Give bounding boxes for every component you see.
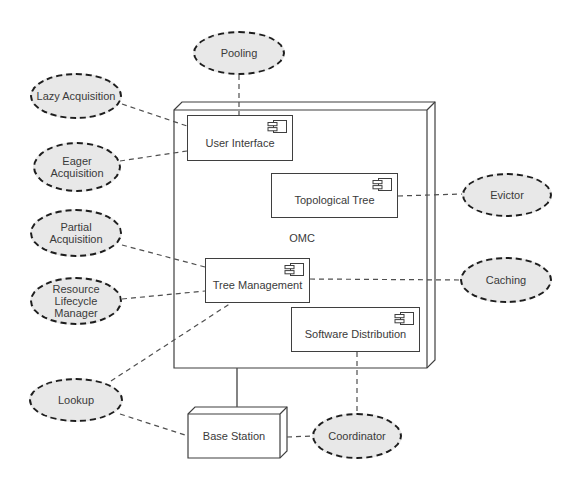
ellipse-label-line: Evictor <box>490 189 524 202</box>
ellipse-evictor: Evictor <box>462 173 552 217</box>
ellipse-lazy-acquisition: Lazy Acquisition <box>30 73 122 119</box>
ellipse-label-line: Pooling <box>221 47 258 60</box>
component-label: Software Distribution <box>305 328 407 340</box>
ellipse-caching: Caching <box>460 257 552 303</box>
component-topological-tree: Topological Tree <box>271 173 398 218</box>
ellipse-label-line: Acquisition <box>49 233 102 246</box>
ellipse-label-line: Acquisition <box>50 167 103 180</box>
component-icon <box>267 119 288 134</box>
component-diagram: OMC User Interface Topological Tree Tree… <box>0 0 580 486</box>
ellipse-label-line: Lookup <box>58 394 94 407</box>
ellipse-label-line: Resource <box>52 283 99 295</box>
ellipse-coordinator: Coordinator <box>312 413 402 459</box>
connector-base-station-coordinator <box>287 436 312 437</box>
component-label: Topological Tree <box>294 194 374 206</box>
component-software-distribution: Software Distribution <box>291 307 420 352</box>
ellipse-resource-lifecycle-manager: Resource Lifecycle Manager <box>30 277 122 325</box>
component-tree-management: Tree Management <box>205 258 310 303</box>
component-icon <box>284 262 305 277</box>
ellipse-label-line: Coordinator <box>328 430 385 443</box>
ellipse-label-line: Lazy Acquisition <box>37 90 116 103</box>
ellipse-label-line: Manager <box>54 307 97 319</box>
ellipse-label-line: Caching <box>486 274 526 287</box>
ellipse-eager-acquisition: Eager Acquisition <box>33 142 121 192</box>
ellipse-label-line: Partial <box>60 221 91 234</box>
ellipse-partial-acquisition: Partial Acquisition <box>30 209 122 257</box>
ellipse-pooling: Pooling <box>193 31 285 75</box>
component-icon <box>394 311 415 326</box>
component-label: Tree Management <box>213 279 302 291</box>
component-label: User Interface <box>205 137 274 149</box>
component-user-interface: User Interface <box>187 115 293 161</box>
ellipse-label-line: Eager <box>62 155 91 168</box>
omc-node-label: OMC <box>284 232 320 244</box>
connector-lookup-base-station <box>120 414 188 436</box>
component-icon <box>372 177 393 192</box>
ellipse-lookup: Lookup <box>29 378 123 422</box>
base-station-label: Base Station <box>188 414 280 458</box>
ellipse-label-line: Lifecycle <box>55 295 98 307</box>
